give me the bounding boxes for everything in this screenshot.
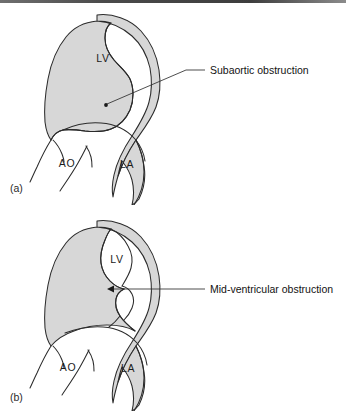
mitral-leaflet-posterior-b: [88, 350, 94, 371]
lv-label-a: LV: [96, 52, 109, 64]
callout-text-midventricular: Mid-ventricular obstruction: [210, 283, 333, 295]
panel-midventricular: LV AO LA Mid-ventricular obstruction (b): [0, 205, 348, 410]
panel-tag-a: (a): [10, 182, 23, 194]
callout-text-subaortic: Subaortic obstruction: [210, 64, 309, 76]
aortic-wall-outer-a: [30, 140, 51, 182]
aortic-wall-outer-b: [30, 346, 51, 388]
la-label-a: LA: [120, 158, 134, 170]
posterior-tail-a: [118, 140, 145, 205]
panel-subaortic: LV AO LA Subaortic obstruction (a): [0, 0, 348, 205]
ao-label-b: AO: [60, 361, 76, 373]
cardiac-figure: LV AO LA Subaortic obstruction (a): [0, 0, 348, 411]
posterior-tail-b: [118, 346, 145, 411]
lv-label-b: LV: [110, 253, 123, 265]
mitral-leaflet-posterior-a: [86, 146, 92, 167]
ao-label-a: AO: [59, 157, 75, 169]
panel-tag-b: (b): [10, 391, 23, 403]
la-label-b: LA: [121, 362, 135, 374]
